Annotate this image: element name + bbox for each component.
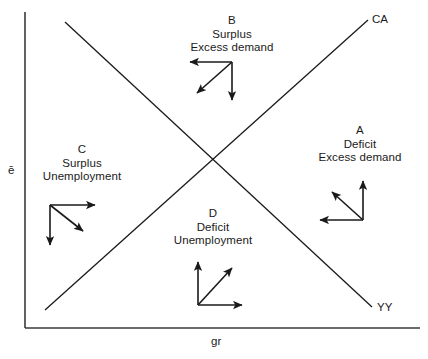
quadrant-b-arrows bbox=[190, 62, 232, 100]
quadrant-b-line2: Excess demand bbox=[190, 41, 273, 55]
quadrant-c-line2: Unemployment bbox=[43, 170, 122, 184]
arrow-up-left-diagonal bbox=[332, 192, 363, 220]
y-axis-label: ē bbox=[8, 164, 14, 176]
quadrant-b-line1: Surplus bbox=[190, 28, 273, 42]
diagram-canvas: ē gr CA YY A Deficit Excess demand B Sur… bbox=[0, 0, 428, 359]
quadrant-c-line1: Surplus bbox=[43, 157, 122, 171]
quadrant-d-line2: Unemployment bbox=[174, 234, 253, 248]
ca-curve-label: CA bbox=[372, 13, 388, 25]
quadrant-b-letter: B bbox=[190, 14, 273, 28]
quadrant-d-arrows bbox=[198, 262, 242, 305]
quadrant-c-letter: C bbox=[43, 143, 122, 157]
quadrant-d-letter: D bbox=[174, 207, 253, 221]
arrow-down-left-diagonal bbox=[197, 62, 232, 93]
x-axis-label: gr bbox=[211, 335, 221, 347]
quadrant-b-label: B Surplus Excess demand bbox=[190, 14, 273, 55]
quadrant-d-label: D Deficit Unemployment bbox=[174, 207, 253, 248]
quadrant-a-line2: Excess demand bbox=[318, 151, 401, 165]
quadrant-d-line1: Deficit bbox=[174, 221, 253, 235]
yy-curve-label: YY bbox=[377, 301, 392, 313]
arrow-up-right-diagonal bbox=[198, 268, 232, 305]
arrow-down-right-diagonal bbox=[50, 205, 83, 231]
quadrant-c-arrows bbox=[50, 205, 95, 245]
quadrant-a-arrows bbox=[320, 181, 363, 220]
quadrant-a-letter: A bbox=[318, 124, 401, 138]
quadrant-a-line1: Deficit bbox=[318, 138, 401, 152]
arrow-layer bbox=[50, 62, 363, 305]
quadrant-a-label: A Deficit Excess demand bbox=[318, 124, 401, 165]
quadrant-c-label: C Surplus Unemployment bbox=[43, 143, 122, 184]
